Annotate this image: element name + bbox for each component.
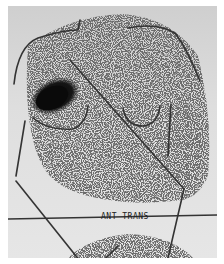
view-label: ANT TRANS	[101, 212, 149, 221]
scintigraphy-scan: ANT TRANS	[8, 6, 217, 258]
lower-body-activity	[68, 234, 193, 258]
